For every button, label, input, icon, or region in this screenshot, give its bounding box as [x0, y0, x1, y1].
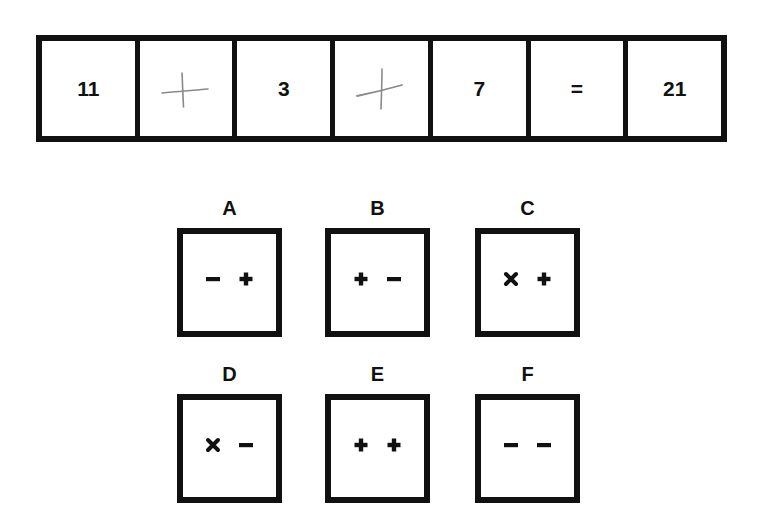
option-box[interactable]: [475, 228, 580, 337]
minus-icon: [385, 270, 403, 288]
option-box[interactable]: [325, 228, 430, 337]
equation-cell-blank[interactable]: [140, 41, 238, 136]
option-label: C: [475, 196, 580, 220]
option-box[interactable]: [475, 394, 580, 503]
minus-icon: [502, 436, 520, 454]
equation-result: 21: [663, 77, 686, 101]
plus-icon: [237, 270, 255, 288]
option-label: E: [325, 362, 430, 386]
minus-icon: [535, 436, 553, 454]
option-label: F: [475, 362, 580, 386]
minus-icon: [237, 436, 255, 454]
equation-cell-number: 7: [433, 41, 531, 136]
minus-icon: [204, 270, 222, 288]
handwritten-plus-icon: [158, 67, 214, 111]
handwritten-plus-icon: [354, 67, 410, 111]
equals-sign: =: [571, 77, 583, 101]
plus-icon: [385, 436, 403, 454]
equation-value: 7: [473, 77, 485, 101]
option-label: A: [177, 196, 282, 220]
plus-icon: [352, 436, 370, 454]
option-box[interactable]: [177, 228, 282, 337]
equation-cell-result: 21: [628, 41, 721, 136]
plus-icon: [352, 270, 370, 288]
equation-strip: 11 3 7 = 21: [36, 35, 727, 142]
equation-cell-blank[interactable]: [335, 41, 433, 136]
option-label: B: [325, 196, 430, 220]
option-label: D: [177, 362, 282, 386]
equation-cell-number: 3: [237, 41, 335, 136]
plus-icon: [535, 270, 553, 288]
equation-value: 11: [77, 77, 99, 101]
equation-cell-number: 11: [42, 41, 140, 136]
equation-cell-equals: =: [531, 41, 629, 136]
times-icon: [502, 270, 520, 288]
option-box[interactable]: [177, 394, 282, 503]
equation-value: 3: [278, 77, 290, 101]
times-icon: [204, 436, 222, 454]
option-box[interactable]: [325, 394, 430, 503]
